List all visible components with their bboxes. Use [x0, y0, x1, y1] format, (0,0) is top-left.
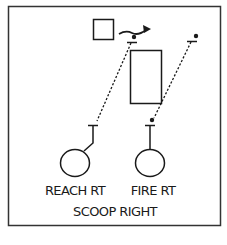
play-diagram: REACH RT FIRE RT SCOOP RIGHT	[0, 0, 227, 245]
dot-marker	[194, 34, 198, 38]
play-title: SCOOP RIGHT	[73, 204, 157, 219]
diagram-frame	[9, 7, 221, 226]
player-circle-fire-rt	[136, 150, 165, 177]
dot-marker	[150, 118, 154, 122]
small-square-marker	[94, 20, 114, 40]
dashed-route-line	[154, 42, 191, 118]
motion-arrow-icon	[119, 25, 151, 34]
dot-marker	[132, 35, 136, 39]
left-route	[61, 35, 138, 177]
tall-rectangle-marker	[131, 51, 162, 104]
player-circle-reach-rt	[61, 150, 90, 177]
block-stem	[84, 126, 93, 151]
label-fire-rt: FIRE RT	[131, 183, 176, 198]
label-reach-rt: REACH RT	[45, 183, 106, 198]
right-route	[136, 34, 199, 177]
dashed-route-line	[97, 43, 131, 121]
